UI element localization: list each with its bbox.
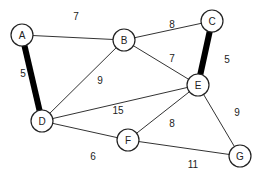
graph-diagram: 7589751568911 ABCDEFG <box>0 0 260 179</box>
edge-weight-A-B: 7 <box>73 11 79 22</box>
node-label: D <box>38 116 45 127</box>
edge-weight-E-F: 8 <box>169 118 175 129</box>
node-label: E <box>195 80 202 91</box>
nodes-layer: ABCDEFG <box>11 10 251 167</box>
node-g: G <box>229 145 251 167</box>
node-f: F <box>117 129 139 151</box>
edge-weight-A-D: 5 <box>20 68 26 79</box>
edge-A-B <box>22 35 124 40</box>
edge-weight-D-E: 15 <box>112 105 124 116</box>
edge-weight-C-E: 5 <box>224 54 230 65</box>
edge-weight-B-D: 9 <box>97 75 103 86</box>
edge-B-E <box>124 40 198 85</box>
node-c: C <box>201 10 223 32</box>
edge-B-C <box>124 21 212 40</box>
edge-D-F <box>42 121 128 140</box>
node-d: D <box>31 110 53 132</box>
edge-weight-D-F: 6 <box>90 151 96 162</box>
node-label: A <box>19 30 26 41</box>
edge-weight-B-E: 7 <box>169 53 175 64</box>
node-label: C <box>208 16 215 27</box>
node-a: A <box>11 24 33 46</box>
edge-weight-E-G: 9 <box>234 107 240 118</box>
node-b: B <box>113 29 135 51</box>
edge-weight-F-G: 11 <box>188 159 199 170</box>
node-label: G <box>236 151 244 162</box>
edge-E-G <box>198 85 240 156</box>
edge-F-G <box>128 140 240 156</box>
node-e: E <box>187 74 209 96</box>
node-label: B <box>121 35 128 46</box>
node-label: F <box>125 135 131 146</box>
edge-weight-B-C: 8 <box>169 19 175 30</box>
